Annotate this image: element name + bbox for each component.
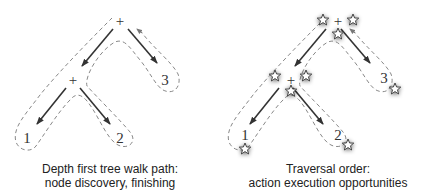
star-icon <box>317 14 329 25</box>
left-leaf-1: 1 <box>23 130 31 146</box>
star-icon <box>269 70 281 81</box>
left-inner-node: + <box>69 72 77 88</box>
left-caption: Depth first tree walk path: node discove… <box>30 162 190 190</box>
star-icon <box>239 143 251 154</box>
left-leaf-2: 2 <box>116 130 124 146</box>
right-caption: Traversal order: action execution opport… <box>248 162 408 190</box>
left-caption-line2: node discovery, finishing <box>30 176 190 190</box>
left-tree: + + 1 2 3 <box>15 13 179 150</box>
left-caption-line1: Depth first tree walk path: <box>30 162 190 176</box>
star-icon <box>342 139 354 150</box>
left-root-node: + <box>116 13 124 29</box>
right-leaf-2: 2 <box>334 127 342 143</box>
right-caption-line1: Traversal order: <box>248 162 408 176</box>
right-caption-line2: action execution opportunities <box>248 176 408 190</box>
right-root-node: + <box>334 13 342 29</box>
right-tree: + + 1 2 3 <box>228 13 401 154</box>
right-leaf-1: 1 <box>241 127 249 143</box>
left-leaf-3: 3 <box>161 72 169 88</box>
star-icon <box>300 70 312 81</box>
right-leaf-3: 3 <box>380 70 388 86</box>
star-icon <box>389 83 401 94</box>
star-icon <box>347 14 359 25</box>
